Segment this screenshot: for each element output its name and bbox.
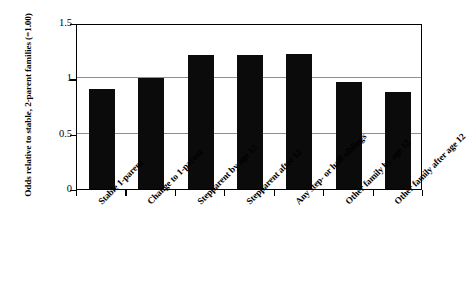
y-axis-title: Odds relative to stable, 2-parent famili… [16, 12, 42, 198]
x-axis-tick-mark [422, 190, 423, 196]
x-axis-tick-mark [76, 190, 77, 196]
y-axis-tick-mark [70, 79, 76, 80]
bar [237, 55, 263, 189]
bar [286, 54, 312, 189]
y-axis-tick-label: 1 [42, 73, 72, 84]
y-axis-tick-mark [70, 190, 76, 191]
y-axis-tick-mark [70, 24, 76, 25]
x-axis-tick-mark [373, 190, 374, 196]
y-axis-tick-labels: 00.511.5 [40, 0, 72, 301]
x-axis-tick-mark [224, 190, 225, 196]
bar [138, 78, 164, 189]
y-axis-tick-mark [70, 135, 76, 136]
x-axis-tick-mark [125, 190, 126, 196]
bar [89, 89, 115, 189]
y-axis-tick-label: 1.5 [42, 18, 72, 29]
y-axis-tick-label: 0.5 [42, 129, 72, 140]
y-axis-title-text: Odds relative to stable, 2-parent famili… [24, 13, 33, 197]
x-axis-tick-mark [274, 190, 275, 196]
y-axis-tick-label: 0 [42, 184, 72, 195]
bar [188, 55, 214, 189]
x-axis-tick-mark [323, 190, 324, 196]
plot-area [76, 24, 422, 190]
x-axis-tick-mark [175, 190, 176, 196]
